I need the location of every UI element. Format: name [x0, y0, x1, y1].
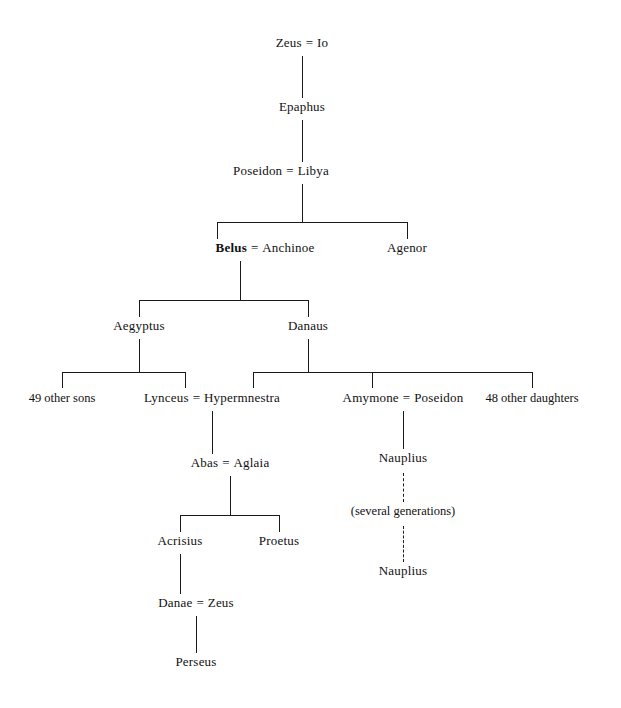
- connector-nauplius-to-generations-dashed: [403, 473, 404, 502]
- node-agenor-label: Agenor: [387, 240, 427, 255]
- marriage-sign: =: [189, 390, 204, 405]
- node-agenor: Agenor: [387, 240, 427, 256]
- node-epaphus: Epaphus: [279, 99, 325, 115]
- connector-aegyptus-stem: [139, 339, 140, 372]
- connector-generations-to-nauplius-dashed: [403, 526, 404, 562]
- connector-amymone-to-nauplius: [403, 411, 404, 449]
- connector-danaus-stem: [308, 339, 309, 372]
- node-zeus-io-left: Zeus: [276, 35, 302, 50]
- node-amymone-poseidon: Amymone=Poseidon: [343, 390, 464, 406]
- sibling-rail-belus-agenor: [217, 222, 407, 223]
- marriage-sign: =: [247, 240, 262, 255]
- node-lynceus-label: Lynceus: [144, 390, 189, 405]
- sibling-rail-aegyptus-danaus: [139, 300, 308, 301]
- node-acrisius: Acrisius: [158, 533, 203, 549]
- node-belus-label: Belus: [216, 240, 247, 255]
- node-nauplius-lower: Nauplius: [379, 563, 428, 579]
- connector-rail-to-danaus: [308, 300, 309, 317]
- genealogy-chart: Zeus=Io Epaphus Poseidon=Libya Belus=Anc…: [0, 0, 621, 708]
- connector-rail-to-hypermnestra: [253, 372, 254, 388]
- connector-rail-to-belus: [217, 222, 218, 239]
- node-poseidon-libya-left: Poseidon: [233, 163, 282, 178]
- marriage-sign: =: [218, 455, 233, 470]
- connector-acrisius-to-danae: [180, 554, 181, 594]
- connector-rail-to-amymone: [372, 372, 373, 388]
- connector-epaphus-poseidonlibya: [302, 120, 303, 162]
- node-other-daughters-label: 48 other daughters: [485, 391, 578, 405]
- connector-abas-stem: [230, 476, 231, 515]
- connector-rail-to-aegyptus: [139, 300, 140, 317]
- node-perseus-label: Perseus: [175, 654, 216, 669]
- node-anchinoe-label: Anchinoe: [262, 240, 314, 255]
- node-proetus-label: Proetus: [259, 533, 299, 548]
- node-several-generations: (several generations): [351, 503, 455, 519]
- connector-rail-to-lynceus: [185, 372, 186, 388]
- node-aegyptus: Aegyptus: [113, 318, 164, 334]
- connector-lynceus-to-abas: [212, 411, 213, 454]
- node-hypermnestra-label: Hypermnestra: [204, 390, 280, 405]
- node-aglaia-label: Aglaia: [234, 455, 270, 470]
- connector-danaezeus-to-perseus: [196, 616, 197, 653]
- marriage-sign: =: [399, 390, 414, 405]
- connector-rail-to-agenor: [407, 222, 408, 239]
- node-nauplius-lower-label: Nauplius: [379, 563, 428, 578]
- connector-rail-to-other-sons: [62, 372, 63, 388]
- node-belus-anchinoe: Belus=Anchinoe: [216, 240, 315, 256]
- node-danae-label: Danae: [158, 595, 192, 610]
- connector-belus-stem: [240, 261, 241, 300]
- node-danaus: Danaus: [288, 318, 328, 334]
- marriage-sign: =: [282, 163, 297, 178]
- connector-rail-to-proetus: [279, 515, 280, 532]
- node-danae-zeus: Danae=Zeus: [158, 595, 234, 611]
- node-epaphus-label: Epaphus: [279, 99, 325, 114]
- connector-rail-to-acrisius: [180, 515, 181, 532]
- node-poseidon-libya-right: Libya: [298, 163, 329, 178]
- node-zeus2-label: Zeus: [208, 595, 234, 610]
- node-other-sons: 49 other sons: [29, 390, 96, 406]
- node-lynceus-hypermnestra: Lynceus=Hypermnestra: [144, 390, 280, 406]
- node-danaus-label: Danaus: [288, 318, 328, 333]
- node-nauplius-upper: Nauplius: [379, 450, 428, 466]
- node-perseus: Perseus: [175, 654, 216, 670]
- connector-poseidonlibya-stem: [302, 184, 303, 222]
- node-acrisius-label: Acrisius: [158, 533, 203, 548]
- node-amymone-label: Amymone: [343, 390, 399, 405]
- sibling-rail-aegyptus-children: [62, 372, 185, 373]
- node-proetus: Proetus: [259, 533, 299, 549]
- sibling-rail-danaus-children: [253, 372, 532, 373]
- node-other-daughters: 48 other daughters: [485, 390, 578, 406]
- marriage-sign: =: [302, 35, 317, 50]
- node-abas-aglaia: Abas=Aglaia: [191, 455, 270, 471]
- node-poseidon2-label: Poseidon: [414, 390, 463, 405]
- node-other-sons-label: 49 other sons: [29, 391, 96, 405]
- node-aegyptus-label: Aegyptus: [113, 318, 164, 333]
- sibling-rail-acrisius-proetus: [180, 515, 279, 516]
- connector-rail-to-other-daughters: [532, 372, 533, 388]
- node-poseidon-libya: Poseidon=Libya: [233, 163, 329, 179]
- node-nauplius-upper-label: Nauplius: [379, 450, 428, 465]
- connector-zeusio-epaphus: [302, 56, 303, 98]
- node-zeus-io-right: Io: [317, 35, 328, 50]
- node-abas-label: Abas: [191, 455, 219, 470]
- node-several-generations-label: (several generations): [351, 504, 455, 518]
- marriage-sign: =: [192, 595, 207, 610]
- node-zeus-io: Zeus=Io: [276, 35, 329, 51]
